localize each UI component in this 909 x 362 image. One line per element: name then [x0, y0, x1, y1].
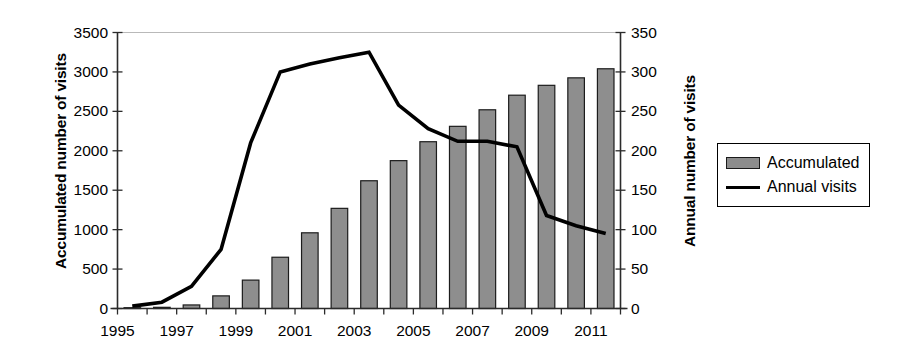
bar-1998	[213, 296, 230, 309]
bar-swatch-icon	[726, 157, 760, 169]
bar-2009	[538, 85, 555, 308]
right-tick-label-150: 150	[631, 181, 691, 199]
line-swatch-icon	[726, 186, 760, 189]
left-tick-label-3000: 3000	[36, 63, 108, 81]
bar-2004	[390, 161, 407, 309]
bar-2003	[361, 181, 378, 309]
right-tick-label-200: 200	[631, 142, 691, 160]
bar-2010	[568, 78, 585, 309]
legend-label-annual-visits: Annual visits	[767, 178, 857, 196]
legend-item-annual-visits: Annual visits	[726, 175, 860, 199]
bar-2006	[449, 126, 466, 308]
left-tick-label-0: 0	[36, 300, 108, 318]
left-tick-label-2000: 2000	[36, 142, 108, 160]
legend-item-accumulated: Accumulated	[726, 151, 860, 175]
legend-label-accumulated: Accumulated	[767, 154, 860, 172]
left-tick-label-500: 500	[36, 260, 108, 278]
bar-2011	[597, 69, 614, 309]
chart-figure: Accumulated number of visits Annual numb…	[0, 0, 909, 362]
bar-2002	[331, 208, 348, 308]
right-tick-label-250: 250	[631, 102, 691, 120]
chart-legend: Accumulated Annual visits	[717, 143, 870, 207]
bar-2008	[509, 95, 526, 308]
bar-2005	[420, 142, 437, 309]
bars-layer	[124, 69, 614, 309]
x-tick-label-2011: 2011	[556, 322, 626, 340]
bar-1999	[242, 280, 259, 308]
left-tick-label-2500: 2500	[36, 102, 108, 120]
left-tick-label-3500: 3500	[36, 24, 108, 42]
bar-2000	[272, 257, 289, 308]
right-tick-label-50: 50	[631, 260, 691, 278]
right-tick-label-350: 350	[631, 24, 691, 42]
bar-2001	[302, 233, 319, 309]
right-tick-label-0: 0	[631, 300, 691, 318]
left-tick-label-1000: 1000	[36, 221, 108, 239]
left-tick-label-1500: 1500	[36, 181, 108, 199]
right-tick-label-100: 100	[631, 221, 691, 239]
right-tick-label-300: 300	[631, 63, 691, 81]
